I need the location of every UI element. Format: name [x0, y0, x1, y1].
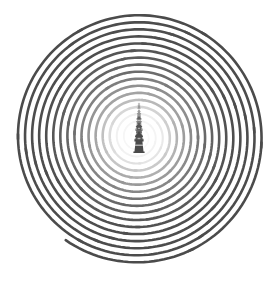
spiral-segment — [117, 129, 123, 151]
spiral-segment — [18, 29, 82, 139]
spiral-segment — [96, 107, 108, 151]
spiral-segment — [144, 130, 149, 140]
spiral-segment — [166, 136, 198, 191]
spiral-segment — [103, 115, 110, 152]
spiral-segment — [165, 121, 170, 155]
tower-group — [133, 102, 144, 153]
spiral-segment — [106, 79, 167, 89]
spiral-segment — [103, 189, 168, 199]
spiral-segment — [150, 125, 156, 143]
spiral-segment — [110, 123, 115, 153]
spiral-segment — [165, 85, 198, 138]
spiral-segment — [124, 133, 129, 147]
spiral-segment — [141, 142, 155, 156]
spiral-segment — [155, 154, 210, 210]
spiral-segment — [157, 123, 163, 149]
spiral-segment — [131, 129, 135, 136]
spiral-segment — [131, 136, 135, 142]
spiral-lighthouse-artwork — [0, 0, 278, 281]
illustration-canvas — [0, 0, 278, 281]
spiral-segment — [82, 139, 116, 187]
